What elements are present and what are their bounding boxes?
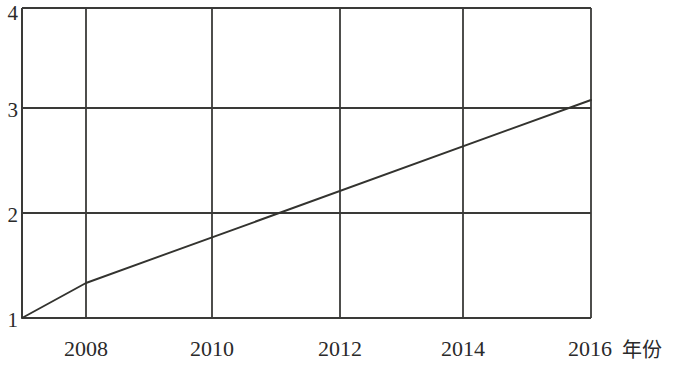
ytick-label-4: 4	[0, 3, 18, 24]
data-line-series	[22, 100, 591, 318]
vertical-gridlines	[22, 8, 591, 318]
ytick-label-1: 1	[0, 310, 18, 331]
ytick-label-3: 3	[0, 100, 18, 121]
chart-figure: 4 3 2 1 2008 2010 2012 2014 2016 年份	[0, 0, 675, 369]
xtick-label-2016: 2016	[550, 338, 630, 360]
xtick-label-2010: 2010	[172, 338, 252, 360]
xtick-label-2008: 2008	[46, 338, 126, 360]
horizontal-gridlines	[22, 8, 591, 318]
line-chart-plot	[0, 0, 675, 369]
ytick-label-2: 2	[0, 205, 18, 226]
xtick-label-2014: 2014	[423, 338, 503, 360]
xtick-label-2012: 2012	[300, 338, 380, 360]
x-axis-title: 年份	[622, 340, 662, 360]
